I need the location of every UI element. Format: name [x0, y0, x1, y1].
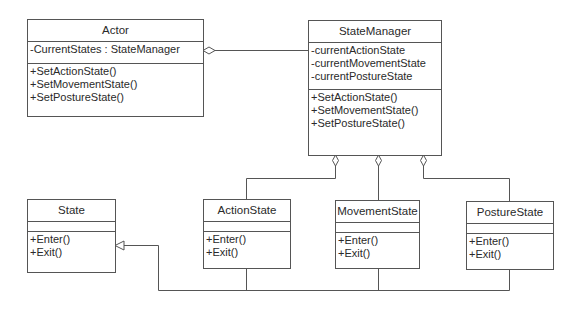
- class-attributes: -currentActionState -currentMovementStat…: [309, 43, 441, 90]
- class-posture-state[interactable]: PostureState +Enter() +Exit(): [466, 201, 554, 270]
- operation: +Enter(): [338, 234, 417, 247]
- operation: +Exit(): [469, 248, 551, 261]
- generalization-line-trunk: [124, 246, 510, 291]
- aggregation-diamond-icon: [203, 47, 215, 54]
- class-action-state[interactable]: ActionState +Enter() +Exit(): [203, 199, 291, 269]
- operation: +Exit(): [30, 246, 113, 259]
- operation: +Enter(): [30, 233, 113, 246]
- operation: +SetPostureState(): [30, 91, 201, 104]
- class-operations: +Enter() +Exit(): [336, 233, 419, 260]
- class-attributes: -CurrentStates : StateManager: [28, 42, 203, 64]
- class-attributes: [28, 222, 115, 232]
- class-name-text: Actor: [102, 24, 129, 37]
- operation: +SetMovementState(): [30, 78, 201, 91]
- class-operations: +Enter() +Exit(): [28, 232, 115, 259]
- class-operations: +SetActionState() +SetMovementState() +S…: [309, 90, 441, 130]
- class-operations: +Enter() +Exit(): [467, 234, 553, 261]
- class-name-text: PostureState: [477, 206, 543, 219]
- operation: +Enter(): [206, 233, 288, 246]
- class-name-text: ActionState: [218, 204, 277, 217]
- class-name: MovementState: [336, 201, 419, 223]
- operation: +SetActionState(): [311, 91, 439, 104]
- class-name: ActionState: [204, 200, 290, 222]
- class-name-text: MovementState: [337, 205, 418, 218]
- aggregation-diamond-icon: [333, 155, 339, 166]
- class-actor[interactable]: Actor -CurrentStates : StateManager +Set…: [27, 19, 204, 117]
- aggregation-diamond-icon: [376, 155, 382, 166]
- class-name: StateManager: [309, 21, 441, 43]
- aggregation-diamond-icon: [421, 155, 427, 166]
- class-operations: +Enter() +Exit(): [204, 232, 290, 259]
- class-name: Actor: [28, 20, 203, 42]
- attribute: -currentMovementState: [311, 57, 439, 70]
- operation: +SetMovementState(): [311, 104, 439, 117]
- attribute: -currentPostureState: [311, 70, 439, 83]
- class-state-manager[interactable]: StateManager -currentActionState -curren…: [308, 20, 442, 156]
- class-movement-state[interactable]: MovementState +Enter() +Exit(): [335, 200, 420, 269]
- class-attributes: [336, 223, 419, 233]
- class-attributes: [467, 224, 553, 234]
- class-name: State: [28, 200, 115, 222]
- aggregation-line-statemanager-posturestate: [424, 166, 510, 201]
- operation: +SetPostureState(): [311, 117, 439, 130]
- attribute: -CurrentStates : StateManager: [30, 43, 201, 56]
- class-operations: +SetActionState() +SetMovementState() +S…: [28, 64, 203, 104]
- class-attributes: [204, 222, 290, 232]
- class-state[interactable]: State +Enter() +Exit(): [27, 199, 116, 273]
- operation: +SetActionState(): [30, 65, 201, 78]
- class-name: PostureState: [467, 202, 553, 224]
- class-name-text: StateManager: [339, 25, 411, 38]
- operation: +Exit(): [206, 246, 288, 259]
- aggregation-line-statemanager-actionstate: [247, 166, 336, 199]
- generalization-arrowhead-icon: [115, 241, 124, 250]
- class-name-text: State: [58, 204, 85, 217]
- attribute: -currentActionState: [311, 44, 439, 57]
- operation: +Exit(): [338, 247, 417, 260]
- operation: +Enter(): [469, 235, 551, 248]
